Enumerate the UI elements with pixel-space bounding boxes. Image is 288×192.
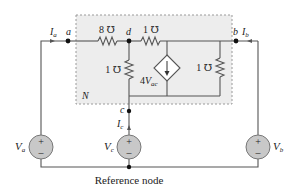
arrow-right-icon bbox=[50, 39, 55, 43]
source-vc: + – bbox=[117, 135, 141, 159]
current-ic-label: Ic bbox=[116, 118, 124, 131]
svg-text:–: – bbox=[255, 147, 262, 158]
resistor-1-right-label: 1 ℧ bbox=[196, 62, 212, 73]
source-vb: + – bbox=[246, 135, 270, 159]
source-va: + – bbox=[29, 135, 53, 159]
resistor-1-top-label: 1 ℧ bbox=[143, 24, 159, 35]
source-va-label: Va bbox=[15, 140, 26, 154]
reference-node-label: Reference node bbox=[95, 174, 164, 186]
network-n-label: N bbox=[81, 90, 90, 101]
current-ia-label: Ia bbox=[49, 26, 57, 39]
node-c-dot bbox=[127, 109, 131, 113]
svg-text:+: + bbox=[126, 136, 132, 147]
current-ib-label: Ib bbox=[241, 26, 249, 39]
svg-text:–: – bbox=[38, 147, 45, 158]
resistor-1-down-label: 1 ℧ bbox=[105, 64, 121, 75]
node-c-label: c bbox=[120, 104, 125, 115]
svg-text:+: + bbox=[255, 136, 261, 147]
svg-text:–: – bbox=[126, 147, 133, 158]
node-a-label: a bbox=[66, 26, 71, 37]
source-vb-label: Vb bbox=[273, 140, 284, 154]
node-d-dot bbox=[127, 39, 132, 44]
arrow-left-icon bbox=[247, 39, 252, 43]
resistor-8-label: 8 ℧ bbox=[99, 24, 115, 35]
source-vc-label: Vc bbox=[104, 140, 115, 154]
node-b-dot bbox=[234, 39, 239, 44]
node-a-dot bbox=[66, 39, 71, 44]
node-b-label: b bbox=[233, 26, 238, 37]
ref-node-dot bbox=[127, 165, 131, 169]
svg-text:+: + bbox=[38, 136, 44, 147]
arrow-up-icon bbox=[127, 125, 131, 130]
circuit-diagram: + – + – + – Ia a 8 ℧ d 1 ℧ b Ib 1 ℧ 4Vac… bbox=[0, 0, 288, 192]
